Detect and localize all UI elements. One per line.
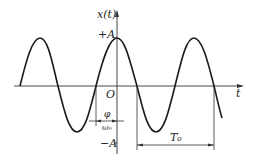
y-axis-label: x(t)	[97, 9, 116, 20]
origin-label: O	[106, 89, 115, 100]
signal-curve	[20, 38, 222, 132]
phase-numerator: φ	[104, 110, 110, 119]
signal-diagram: x(t) +A O t −A φ ω₀ T₀	[0, 0, 258, 164]
diagram-canvas	[0, 0, 258, 164]
phase-denominator: ω₀	[102, 124, 112, 132]
period-label: T₀	[170, 132, 182, 143]
plus-a-label: +A	[98, 29, 115, 40]
minus-a-label: −A	[100, 138, 117, 149]
t-axis-label: t	[236, 88, 240, 99]
